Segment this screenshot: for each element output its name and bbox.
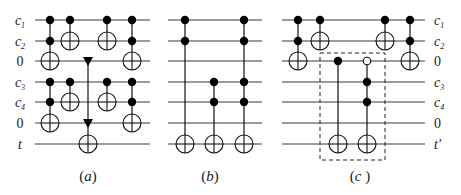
control-dot-icon	[128, 37, 136, 45]
control-dot-icon	[128, 16, 136, 24]
control-dot-icon	[181, 37, 189, 45]
control-dot-icon	[363, 98, 371, 106]
circuit-panel-a: (a)	[35, 16, 150, 185]
control-dot-icon	[240, 16, 248, 24]
wire-label-left: c4	[15, 95, 25, 112]
control-dot-icon	[128, 78, 136, 86]
wire-label-left: c2	[15, 34, 25, 51]
control-dot-icon	[210, 78, 218, 86]
control-dot-icon	[128, 98, 136, 106]
gate	[79, 57, 97, 153]
circuit-panel-b: (b)	[168, 16, 262, 185]
control-dot-icon	[294, 16, 302, 24]
gate	[41, 78, 59, 132]
gate	[123, 78, 141, 132]
wire-label-right: c2	[434, 34, 444, 51]
control-dot-icon	[181, 16, 189, 24]
control-dot-icon	[240, 98, 248, 106]
gate	[41, 16, 59, 70]
gate	[176, 16, 194, 153]
wire-label-right: c4	[434, 95, 444, 112]
control-dot-icon	[103, 16, 111, 24]
wire-label-left: 0	[17, 54, 24, 69]
circuit-panel-c: (c )	[282, 16, 425, 185]
gate	[235, 16, 253, 153]
control-dot-icon	[240, 78, 248, 86]
open-control-icon	[363, 57, 371, 65]
control-dot-icon	[381, 16, 389, 24]
control-dot-icon	[316, 16, 324, 24]
control-dot-icon	[363, 78, 371, 86]
gate	[289, 16, 307, 70]
control-dot-icon	[46, 98, 54, 106]
control-dot-icon	[210, 98, 218, 106]
wire-label-right: t′	[434, 137, 442, 152]
wire-label-right: 0	[434, 54, 441, 69]
control-dot-icon	[46, 37, 54, 45]
gate	[98, 78, 116, 111]
panel-caption-c: (c )	[350, 168, 370, 185]
gate	[61, 16, 79, 50]
panel-caption-a: (a)	[79, 168, 97, 185]
control-dot-icon	[294, 37, 302, 45]
gate	[123, 16, 141, 70]
panel-caption-b: (b)	[201, 168, 219, 185]
wire-label-left: c1	[15, 13, 25, 30]
wire-label-left: t	[18, 137, 23, 152]
gate	[98, 16, 116, 50]
control-dot-icon	[66, 78, 74, 86]
control-dot-icon	[103, 78, 111, 86]
wire-label-right: 0	[434, 116, 441, 131]
wire-label-left: 0	[17, 116, 24, 131]
gate	[401, 16, 419, 70]
gate	[376, 16, 394, 50]
wire-label-right: c3	[434, 75, 444, 92]
gate	[205, 78, 223, 153]
control-dot-icon	[46, 78, 54, 86]
gate	[358, 57, 376, 153]
quantum-circuit-diagram: c1c20c3c40tc1c20c3c40t′(a)(b)(c )	[0, 0, 461, 195]
gate	[311, 16, 329, 50]
wire-label-right: c1	[434, 13, 444, 30]
gate	[61, 78, 79, 111]
wire-label-left: c3	[15, 75, 25, 92]
control-dot-icon	[334, 57, 342, 65]
gate	[329, 57, 347, 153]
control-dot-icon	[46, 16, 54, 24]
control-dot-icon	[66, 16, 74, 24]
control-dot-icon	[406, 16, 414, 24]
control-dot-icon	[240, 37, 248, 45]
control-dot-icon	[406, 37, 414, 45]
